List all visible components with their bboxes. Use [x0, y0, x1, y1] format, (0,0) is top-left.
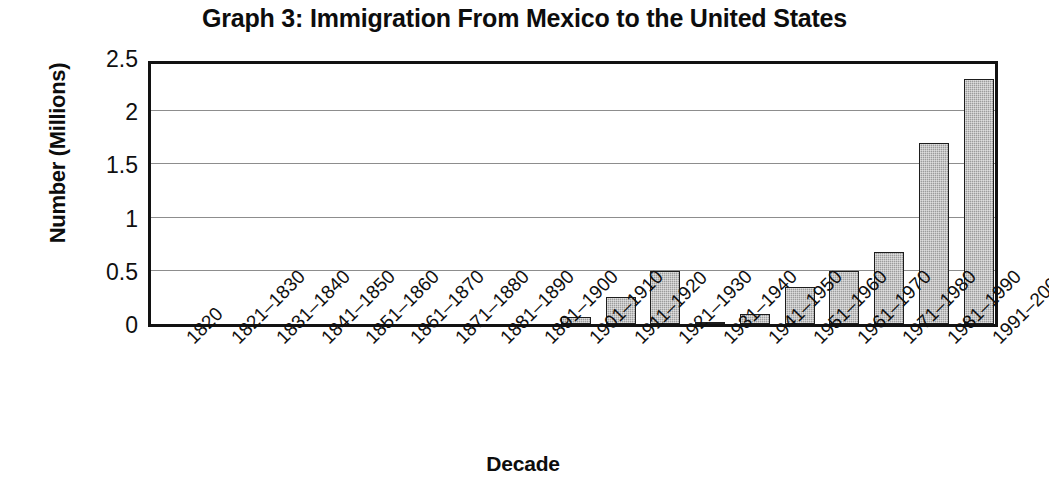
x-tick-label: 1951–1960: [809, 333, 825, 349]
x-tick-label: 1971–1980: [898, 333, 914, 349]
y-tick-label: 2: [52, 99, 138, 126]
x-tick-label: 1891–1900: [540, 333, 556, 349]
chart-figure: Graph 3: Immigration From Mexico to the …: [0, 0, 1049, 488]
bar-slot: [151, 64, 196, 324]
x-tick-label: 1991–2000: [988, 333, 1004, 349]
x-tick-label: 1981–1990: [943, 333, 959, 349]
y-tick-label: 1.5: [52, 152, 138, 179]
bar-slot: [196, 64, 241, 324]
x-tick-label: 1861–1870: [406, 333, 422, 349]
y-tick-label: 0.5: [52, 259, 138, 286]
x-tick-label: 1871–1880: [451, 333, 467, 349]
x-tick-label: 1881–1890: [496, 333, 512, 349]
y-tick-label: 1: [52, 206, 138, 233]
x-tick-label: 1831–1840: [272, 333, 288, 349]
x-tick-label: 1821–1830: [227, 333, 243, 349]
x-tick-label: 1961–1970: [853, 333, 869, 349]
y-tick-label: 2.5: [52, 46, 138, 73]
x-axis-tick-labels: 18201821–18301831–18401841–18501851–1860…: [148, 327, 998, 452]
x-tick-label: 1851–1860: [361, 333, 377, 349]
x-tick-label: 1931–1940: [719, 333, 735, 349]
x-tick-label: 1901–1910: [585, 333, 601, 349]
x-tick-label: 1911–1920: [630, 333, 646, 349]
y-tick-label: 0: [52, 312, 138, 339]
x-tick-label: 1841–1850: [317, 333, 333, 349]
x-tick-label: 1921–1930: [674, 333, 690, 349]
x-axis-title: Decade: [148, 452, 898, 476]
x-tick-label: 1941–1950: [764, 333, 780, 349]
x-tick-label: 1820: [182, 333, 198, 349]
